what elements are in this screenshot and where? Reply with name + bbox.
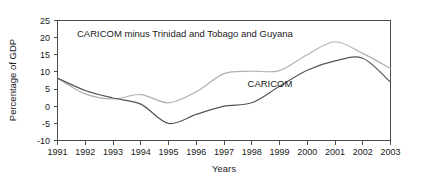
x-tick-label: 1996 bbox=[186, 147, 206, 157]
y-tick-label: 20 bbox=[40, 33, 50, 43]
series-label-caricom: CARICOM bbox=[248, 78, 293, 89]
x-tick-label: 1998 bbox=[242, 147, 262, 157]
y-tick-label: 5 bbox=[45, 84, 50, 94]
y-axis-title: Percentage of GDP bbox=[7, 39, 18, 121]
y-tick-label: 10 bbox=[40, 67, 50, 77]
y-tick-label: -10 bbox=[37, 136, 50, 146]
x-tick-label: 2002 bbox=[353, 147, 373, 157]
series-label-caricom-minus: CARICOM minus Trinidad and Tobago and Gu… bbox=[77, 28, 294, 39]
series-group bbox=[58, 42, 391, 124]
x-tick-label: 1999 bbox=[269, 147, 289, 157]
y-tick-label: -5 bbox=[42, 119, 50, 129]
y-tick-label: 15 bbox=[40, 50, 50, 60]
x-tick-label: 2001 bbox=[325, 147, 345, 157]
x-tick-label: 1991 bbox=[47, 147, 67, 157]
series-line-caricom bbox=[58, 57, 391, 124]
x-tick-label: 1992 bbox=[75, 147, 95, 157]
y-tick-label: 0 bbox=[45, 102, 50, 112]
x-axis-title: Years bbox=[212, 163, 236, 174]
chart-figure: 25 20 15 10 5 0 -5 -10 1991 bbox=[0, 0, 430, 178]
x-tick-label: 1997 bbox=[214, 147, 234, 157]
x-tick-label: 2003 bbox=[380, 147, 400, 157]
x-tick-label: 2000 bbox=[297, 147, 317, 157]
x-axis-tick-labels: 1991 1992 1993 1994 1995 1996 1997 1998 … bbox=[47, 147, 400, 157]
x-axis-ticks bbox=[58, 141, 391, 145]
y-axis-ticks bbox=[54, 21, 58, 141]
y-axis-tick-labels: 25 20 15 10 5 0 -5 -10 bbox=[37, 16, 50, 146]
line-chart: 25 20 15 10 5 0 -5 -10 1991 bbox=[0, 0, 430, 178]
x-tick-label: 1995 bbox=[158, 147, 178, 157]
y-tick-label: 25 bbox=[40, 16, 50, 26]
x-tick-label: 1993 bbox=[103, 147, 123, 157]
x-tick-label: 1994 bbox=[131, 147, 151, 157]
series-line-caricom-minus bbox=[58, 42, 391, 103]
